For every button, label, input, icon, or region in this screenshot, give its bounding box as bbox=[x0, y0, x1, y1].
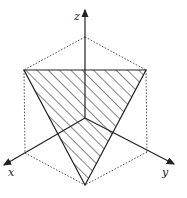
y-axis-label: y bbox=[161, 166, 169, 179]
coordinate-diagram: z x y bbox=[0, 0, 187, 198]
z-axis-label: z bbox=[73, 10, 80, 23]
x-axis-label: x bbox=[8, 166, 15, 179]
